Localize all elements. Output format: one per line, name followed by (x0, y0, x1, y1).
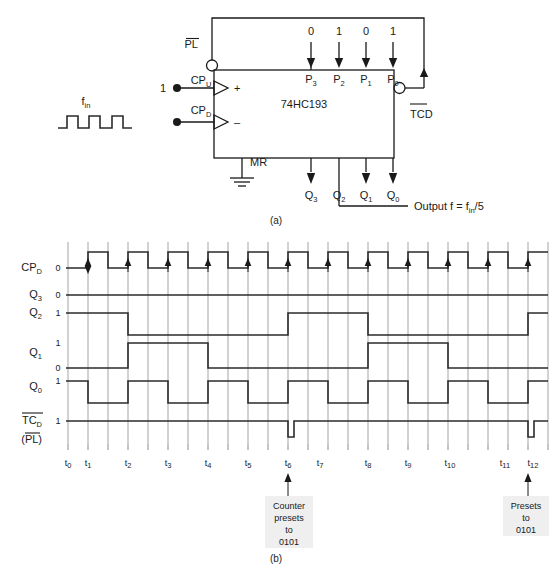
annotation-left-line-2: presets (274, 513, 304, 523)
preset-value-p1: 0 (363, 25, 369, 37)
cpu-edge-triangle-icon (214, 81, 228, 95)
pl-label: PL (185, 38, 198, 50)
q0-arrow-head-icon (389, 173, 397, 184)
preset-pin-label-p0: P0 (387, 73, 399, 88)
cpu-plus-sign: + (234, 82, 240, 94)
waveform-label-pl: (PL) (21, 433, 42, 445)
time-label-t2: t2 (125, 458, 132, 470)
caption-part-b: (b) (270, 553, 282, 564)
output-frequency-label: Output f = fin/5 (414, 200, 484, 215)
q1-pin-label: Q1 (360, 189, 373, 204)
annotation-counter-presets: Counter presets to 0101 (265, 473, 313, 548)
annotation-arrow-left-icon (284, 473, 291, 482)
time-label-t4: t4 (205, 458, 212, 470)
caption-part-a: (a) (270, 215, 282, 226)
preset-pin-label-p3: P3 (305, 73, 317, 88)
time-label-t11: t11 (500, 458, 510, 470)
annotation-arrow-right-icon (524, 473, 531, 482)
waveform-q0 (66, 381, 548, 403)
preset-pin-label-p2: P2 (333, 73, 345, 88)
time-label-t9: t9 (405, 458, 412, 470)
waveform-label-tcd: TCD (22, 414, 43, 429)
time-label-t6: t6 (285, 458, 292, 470)
time-label-t1: t1 (85, 458, 92, 470)
q1-arrow-head-icon (362, 173, 370, 184)
time-label-t7: t7 (317, 458, 324, 470)
waveform-level-q1-0: 0 (55, 363, 60, 373)
waveform-q1 (66, 343, 548, 368)
cpu-label: CPU (191, 74, 212, 89)
time-label-t3: t3 (165, 458, 172, 470)
annotation-right-line-3: 0101 (516, 525, 536, 535)
fin-waveform (58, 116, 132, 128)
mr-label: MR (250, 156, 267, 168)
waveform-cpd (66, 252, 548, 268)
time-label-t10: t10 (445, 458, 456, 470)
preset-value-p2: 1 (336, 25, 342, 37)
waveform-label-q3: Q3 (29, 288, 42, 303)
q-output-group: Q3 Q2 Q1 Q0 Output f = fin/5 (305, 158, 484, 215)
preset-arrow-head-p0 (389, 58, 397, 68)
tcd-label: TCD (410, 108, 433, 120)
time-label-t5: t5 (245, 458, 252, 470)
waveform-label-q0: Q0 (29, 380, 42, 395)
time-label-t0: t0 (65, 458, 72, 470)
q3-arrow-head-icon (307, 173, 315, 184)
fin-source: fin (58, 95, 132, 128)
waveform-label-q2: Q2 (29, 306, 42, 321)
cpu-value: 1 (160, 82, 166, 94)
annotation-right-line-1: Presets (511, 501, 542, 511)
fin-label: fin (82, 95, 91, 110)
annotation-right-line-2: to (522, 513, 530, 523)
waveform-tcd (66, 421, 548, 437)
annotation-left-line-3: to (285, 525, 293, 535)
waveform-level-q2-1: 1 (55, 308, 60, 318)
time-label-t12: t12 (528, 458, 539, 470)
cpd-edge-triangle-icon (214, 115, 228, 129)
circuit-diagram: 74HC193 PL TCD 0 P3 1 P2 0 P1 1 P0 CPU 1 (0, 0, 552, 228)
pl-bubble-icon (207, 60, 218, 71)
annotation-left-line-4: 0101 (279, 537, 299, 547)
chip-name: 74HC193 (281, 98, 327, 110)
time-label-t8: t8 (365, 458, 372, 470)
feedback-arrow-icon (420, 68, 428, 77)
waveform-label-q1: Q1 (29, 346, 42, 361)
waveform-level-q3-0: 0 (55, 290, 60, 300)
q3-pin-label: Q3 (305, 189, 318, 204)
waveform-label-cpd: CPD (21, 261, 42, 276)
waveform-level-q0-1: 1 (55, 376, 60, 386)
cpd-input-group: CPD – (173, 104, 241, 129)
preset-value-p3: 0 (308, 25, 314, 37)
preset-arrow-head-p1 (362, 58, 370, 68)
cpd-label: CPD (191, 104, 212, 119)
waveform-level-q1-1: 1 (55, 338, 60, 348)
waveform-q2 (66, 313, 548, 335)
q0-pin-label: Q0 (387, 189, 400, 204)
annotation-left-line-1: Counter (273, 501, 305, 511)
preset-arrow-head-p2 (335, 58, 343, 68)
waveform-level-cpd-0: 0 (55, 263, 60, 273)
waveform-level-tcd-1: 1 (55, 416, 60, 426)
mr-ground-group: MR (230, 156, 267, 186)
preset-value-p0: 1 (390, 25, 396, 37)
time-axis: t0 t1 t2 t3 t4 t5 t6 t7 t8 t9 t10 t11 t1… (65, 444, 548, 470)
preset-pin-label-p1: P1 (360, 73, 372, 88)
timing-diagram: CPD 0 Q3 0 Q2 1 Q1 1 0 Q0 1 TCD (PL) 1 (0, 228, 552, 567)
preset-input-group: 0 P3 1 P2 0 P1 1 P0 (305, 25, 399, 88)
annotation-presets-right: Presets to 0101 (503, 473, 549, 536)
cpu-input-group: CPU 1 + (160, 74, 241, 95)
cpd-minus-sign: – (234, 116, 241, 128)
